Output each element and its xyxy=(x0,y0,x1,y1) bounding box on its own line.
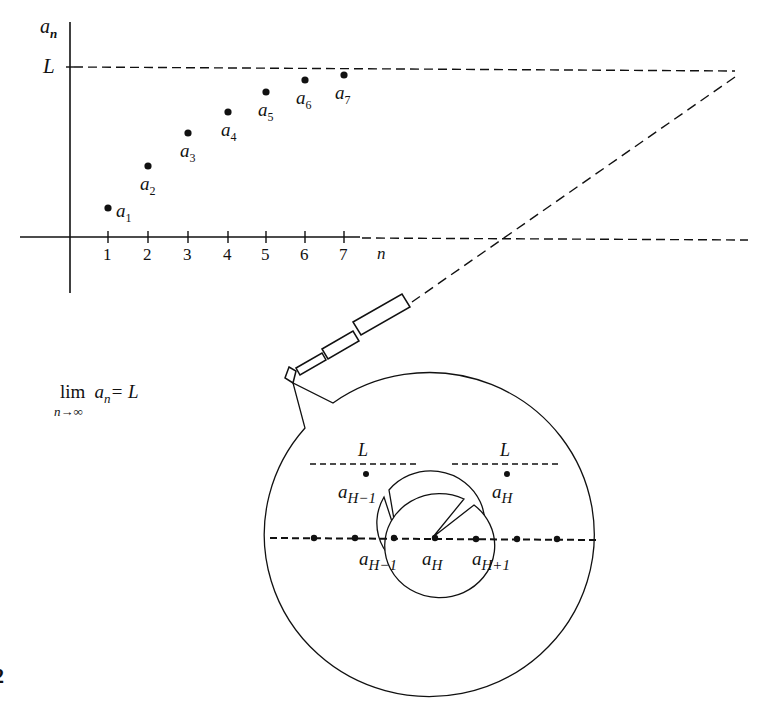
point-label-a5: a5 xyxy=(258,98,274,125)
point-a6 xyxy=(301,76,308,83)
point-a3 xyxy=(184,129,191,136)
telescope-icon xyxy=(285,294,410,383)
point-a4 xyxy=(224,108,231,115)
limit-diagram xyxy=(0,0,766,703)
limit-line xyxy=(74,67,735,71)
point-label-a4: a4 xyxy=(221,118,237,145)
point-label-a2: a2 xyxy=(140,172,156,199)
bubble-right-point xyxy=(504,471,510,477)
formula-under: n→∞ xyxy=(54,404,83,420)
y-axis-label: an xyxy=(40,14,57,42)
tick-label-3: 3 xyxy=(183,245,192,265)
point-a2 xyxy=(144,162,151,169)
tick-label-6: 6 xyxy=(300,245,309,265)
point-a7 xyxy=(340,71,347,78)
bubble-left-point xyxy=(363,471,369,477)
point-a1 xyxy=(104,204,111,211)
sight-line xyxy=(412,77,735,302)
point-label-a3: a3 xyxy=(180,139,196,166)
limit-formula: lim an= L xyxy=(60,380,139,407)
point-label-a7: a7 xyxy=(335,81,351,108)
mag-label-aH+1: aH+1 xyxy=(472,547,510,574)
tick-label-1: 1 xyxy=(103,245,112,265)
bubble-left-label: aH−1 xyxy=(338,480,376,507)
point-label-a6: a6 xyxy=(296,86,312,113)
x-axis-extension xyxy=(362,238,748,240)
tick-label-2: 2 xyxy=(143,245,152,265)
mag-label-aH-1: aH−1 xyxy=(359,547,397,574)
bubble-right-L: L xyxy=(500,440,510,461)
tick-label-7: 7 xyxy=(339,245,348,265)
mag-label-aH: aH xyxy=(422,547,442,574)
formula-lim: lim xyxy=(60,381,85,402)
bubble-right xyxy=(385,494,495,598)
tick-label-4: 4 xyxy=(223,245,232,265)
bubble-left-L: L xyxy=(358,440,368,461)
tick-label-5: 5 xyxy=(261,245,270,265)
point-label-a1: a1 xyxy=(116,199,132,226)
bubble-right-label: aH xyxy=(492,480,512,507)
page-number-fragment: 2 xyxy=(0,665,4,688)
limit-label: L xyxy=(43,54,55,79)
point-a5 xyxy=(262,88,269,95)
x-axis-label: n xyxy=(377,244,386,264)
